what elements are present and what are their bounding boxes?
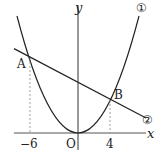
tick-label-4: 4 bbox=[106, 137, 114, 151]
tick-label-neg6: −6 bbox=[20, 137, 38, 151]
coordinate-graph: y x O −6 4 A B ① ② bbox=[0, 0, 168, 153]
x-axis-label: x bbox=[147, 126, 155, 141]
curve-2-label: ② bbox=[142, 113, 153, 127]
point-b-label: B bbox=[114, 88, 123, 102]
point-a-label: A bbox=[16, 57, 26, 71]
origin-label: O bbox=[66, 137, 76, 151]
y-axis-label: y bbox=[74, 0, 83, 15]
curve-1-label: ① bbox=[136, 1, 147, 15]
